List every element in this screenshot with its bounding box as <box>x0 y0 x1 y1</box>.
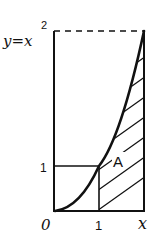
x-tick-origin: 0 <box>41 216 51 234</box>
region-label-a: A <box>113 153 123 170</box>
curve-exponent: 2 <box>41 19 47 31</box>
x-axis-end-label: x <box>138 214 147 233</box>
curve-label: y=x <box>2 32 33 50</box>
y-tick-one: 1 <box>40 161 47 175</box>
x-tick-one: 1 <box>95 218 102 233</box>
area-under-parabola-diagram: y=x 2 A 1 0 1 x <box>0 0 157 240</box>
hatch-shading <box>90 26 157 236</box>
